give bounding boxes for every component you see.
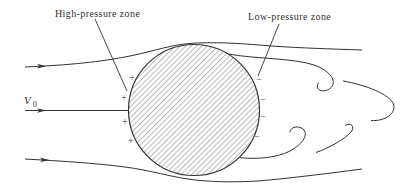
wake-lower-outer-vortex (316, 124, 353, 152)
high-pressure-zone-label: High-pressure zone (55, 8, 140, 19)
flow-diagram: High-pressure zone Low-pressure zone V 0… (0, 0, 411, 191)
velocity-subscript: 0 (33, 100, 37, 109)
plus-sign: + (128, 136, 133, 146)
minus-sign: − (256, 75, 261, 85)
low-pressure-leader-line (258, 24, 279, 76)
velocity-label: V (24, 94, 32, 106)
flow-diagram-svg: High-pressure zone Low-pressure zone V 0… (0, 0, 411, 191)
plus-sign: + (121, 93, 126, 103)
plus-sign: + (129, 73, 134, 83)
cylinder (129, 45, 260, 176)
low-pressure-zone-label: Low-pressure zone (248, 11, 331, 22)
minus-sign: − (260, 95, 265, 105)
high-pressure-leader-line (95, 19, 127, 91)
minus-sign: − (254, 132, 259, 142)
minus-sign: − (260, 112, 265, 122)
wake-upper-outer-vortex (343, 81, 394, 121)
plus-sign: + (122, 117, 127, 127)
